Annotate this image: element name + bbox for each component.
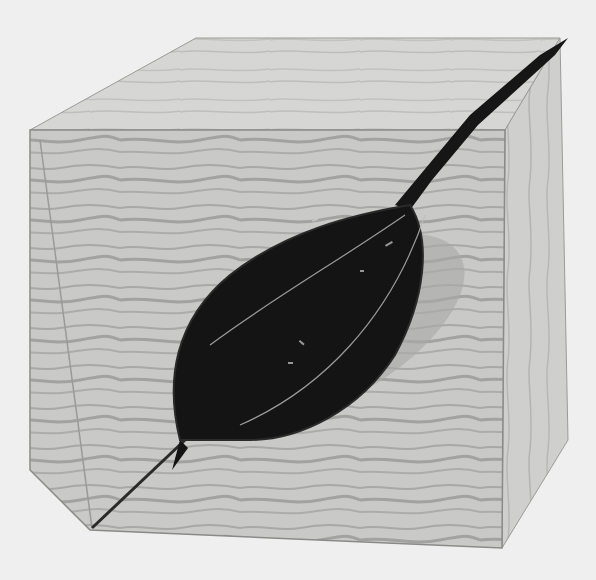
sculpture-photo bbox=[0, 0, 596, 580]
sculpture-illustration bbox=[0, 0, 596, 580]
